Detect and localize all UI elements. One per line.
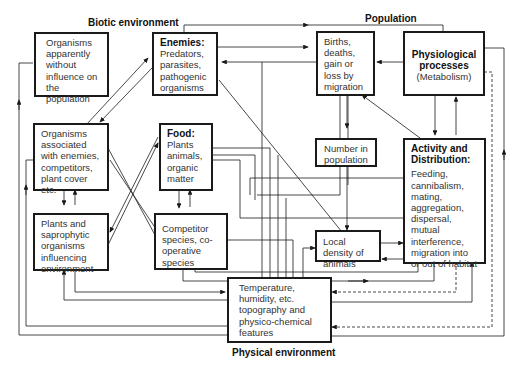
box-organisms-associated: Organisms associated with enemies, compe… bbox=[33, 123, 109, 191]
box-physiological-processes: Physiological processes (Metabolism) bbox=[403, 31, 485, 96]
box-text: Number in population bbox=[324, 143, 368, 165]
box-text: Births, deaths, gain or loss by migratio… bbox=[324, 36, 363, 92]
box-number-in-population: Number in population bbox=[315, 138, 377, 167]
box-food: Food: Plants animals, organic matter bbox=[159, 123, 213, 191]
box-title: Enemies: bbox=[160, 37, 210, 48]
box-text: Organisms apparently without influence o… bbox=[46, 37, 97, 104]
box-text: Competitor species, co-operative species bbox=[162, 223, 213, 268]
label-population: Population bbox=[365, 13, 417, 24]
label-physical-environment: Physical environment bbox=[232, 347, 335, 358]
box-plants-saprophytic: Plants and saprophytic organisms influen… bbox=[33, 213, 109, 271]
box-text: Organisms associated with enemies, compe… bbox=[41, 128, 99, 195]
box-text: Plants animals, organic matter bbox=[167, 139, 202, 184]
box-text: (Metabolism) bbox=[417, 71, 472, 82]
box-text: Feeding, cannibalism, mating, aggregatio… bbox=[411, 168, 477, 269]
box-enemies: Enemies: Predators, parasites, pathogeni… bbox=[152, 32, 218, 96]
label-biotic-environment: Biotic environment bbox=[88, 17, 179, 28]
box-text: Predators, parasites, pathogenic organis… bbox=[160, 48, 206, 93]
box-activity-distribution: Activity and Distribution: Feeding, cann… bbox=[403, 138, 486, 264]
box-organisms-no-influence: Organisms apparently without influence o… bbox=[34, 32, 109, 97]
box-births-deaths: Births, deaths, gain or loss by migratio… bbox=[316, 31, 375, 96]
box-title: Activity and Distribution: bbox=[411, 143, 478, 165]
box-temperature-physical: Temperature, humidity, etc. topography a… bbox=[227, 277, 332, 343]
box-title: Physiological processes bbox=[411, 49, 477, 71]
box-competitor-species: Competitor species, co-operative species bbox=[154, 213, 228, 270]
box-text: Temperature, humidity, etc. topography a… bbox=[239, 282, 312, 338]
box-text: Plants and saprophytic organisms influen… bbox=[41, 218, 93, 274]
box-local-density: Local density of animals bbox=[315, 230, 381, 262]
box-title: Food: bbox=[167, 128, 205, 139]
